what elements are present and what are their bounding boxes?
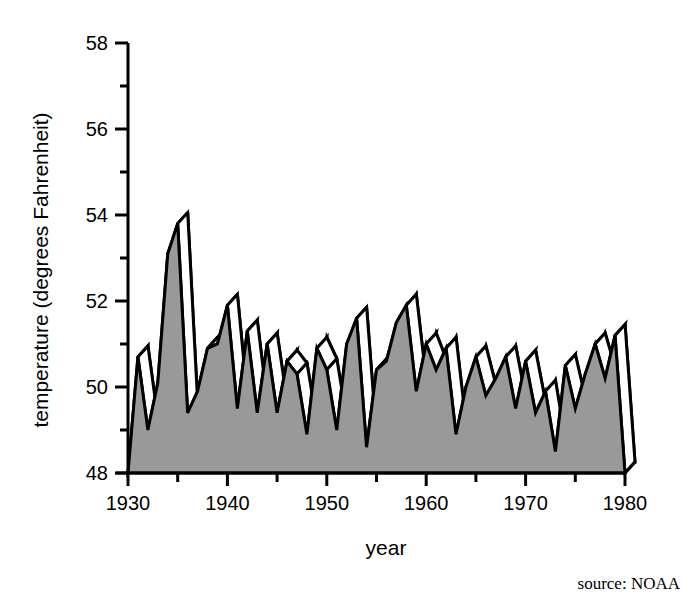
x-tick-label: 1970	[503, 492, 548, 514]
temperature-series-3d	[128, 213, 635, 473]
x-axis-ticks	[128, 473, 625, 486]
chart-canvas: temperature (degrees Fahrenheit) 4850525…	[0, 0, 692, 604]
x-axis-title: year	[366, 536, 407, 559]
y-axis-ticks	[115, 43, 128, 473]
temperature-area-chart: temperature (degrees Fahrenheit) 4850525…	[0, 0, 692, 604]
x-tick-label: 1950	[305, 492, 350, 514]
series-front-area	[128, 224, 625, 473]
x-axis-tick-labels: 193019401950196019701980	[106, 492, 648, 514]
y-tick-label: 48	[86, 462, 108, 484]
x-tick-label: 1930	[106, 492, 151, 514]
y-tick-label: 58	[86, 32, 108, 54]
y-tick-label: 50	[86, 376, 108, 398]
x-tick-label: 1980	[603, 492, 648, 514]
y-axis-title: temperature (degrees Fahrenheit)	[29, 112, 52, 427]
x-tick-label: 1940	[205, 492, 250, 514]
y-tick-label: 56	[86, 118, 108, 140]
source-note: source: NOAA	[578, 574, 681, 593]
x-tick-label: 1960	[404, 492, 449, 514]
y-tick-label: 52	[86, 290, 108, 312]
y-axis-tick-labels: 485052545658	[86, 32, 108, 484]
y-tick-label: 54	[86, 204, 108, 226]
